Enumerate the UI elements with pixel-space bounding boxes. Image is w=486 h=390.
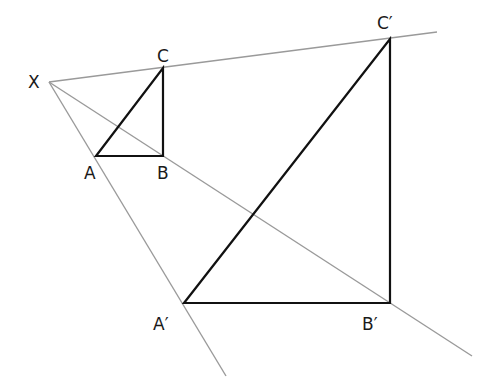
ray-through-a [49, 82, 226, 376]
enlargement-diagram: X C A B C′ A′ B′ [0, 0, 486, 390]
ray-through-b [49, 82, 472, 356]
label-b: B [157, 163, 169, 183]
label-a: A [84, 163, 96, 183]
label-c: C [157, 46, 169, 66]
label-b-prime: B′ [362, 314, 378, 334]
label-a-prime: A′ [153, 314, 169, 334]
ray-through-c [49, 32, 437, 82]
label-x: X [28, 72, 40, 92]
label-c-prime: C′ [377, 13, 393, 33]
triangle-a-prime-b-prime-c-prime [184, 39, 390, 303]
triangle-abc [96, 68, 163, 156]
